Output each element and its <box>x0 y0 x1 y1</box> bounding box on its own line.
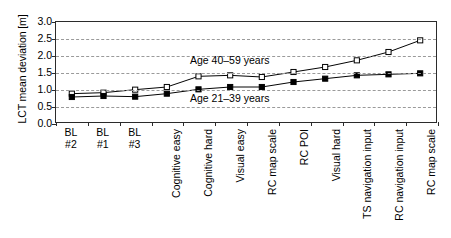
x-axis-category-labels: BL#2BL#1BL#3Cognitive easyCognitive hard… <box>55 127 437 238</box>
x-category-label: RC map scale <box>267 129 279 238</box>
data-point-marker <box>354 58 359 63</box>
x-tick-mark <box>374 122 375 126</box>
series-line-1 <box>72 40 420 93</box>
y-tick-label: 0.0 <box>26 118 52 129</box>
x-tick-mark <box>88 122 89 126</box>
y-tick-label: 3.0 <box>26 16 52 27</box>
x-category-label: Visual hard <box>331 129 343 238</box>
x-category-label-line: BL <box>119 127 151 139</box>
data-point-marker <box>291 79 296 84</box>
data-point-marker <box>69 94 74 99</box>
data-point-marker <box>323 64 328 69</box>
data-point-marker <box>101 93 106 98</box>
data-point-marker <box>133 94 138 99</box>
data-point-marker <box>164 84 169 89</box>
data-point-marker <box>386 49 391 54</box>
x-tick-mark <box>215 122 216 126</box>
x-category-label: Visual easy <box>235 129 247 238</box>
series-annotation-age-40-59: Age 40–59 years <box>190 54 269 66</box>
x-category-label-line: BL <box>87 127 119 139</box>
data-point-marker <box>164 91 169 96</box>
x-category-label: Cognitive easy <box>171 129 183 238</box>
x-category-label: RC map scale <box>426 129 438 238</box>
x-category-label-line: BL <box>55 127 87 139</box>
x-category-label: Cognitive hard <box>203 129 215 238</box>
chart-figure: LCT mean deviation [m] 3.02.52.01.51.00.… <box>0 0 451 238</box>
y-tick-label: 2.5 <box>26 33 52 44</box>
x-tick-mark <box>311 122 312 126</box>
data-point-marker <box>196 74 201 79</box>
x-tick-mark <box>343 122 344 126</box>
gridline <box>56 39 436 40</box>
x-category-label-line: #1 <box>87 139 119 151</box>
gridline <box>56 73 436 74</box>
x-tick-mark <box>279 122 280 126</box>
x-tick-mark <box>438 122 439 126</box>
gridline <box>56 107 436 108</box>
y-tick-label: 1.0 <box>26 84 52 95</box>
x-category-label: BL#2 <box>55 127 87 150</box>
y-tick-mark <box>52 22 56 23</box>
series-annotation-age-21-39: Age 21–39 years <box>190 92 269 104</box>
x-tick-mark <box>406 122 407 126</box>
x-category-label: BL#3 <box>119 127 151 150</box>
x-tick-mark <box>183 122 184 126</box>
x-category-label: RC POI <box>299 129 311 238</box>
y-tick-label: 1.5 <box>26 67 52 78</box>
x-tick-mark <box>120 122 121 126</box>
plot-area <box>55 21 437 123</box>
y-tick-label: 2.0 <box>26 50 52 61</box>
data-point-marker <box>228 84 233 89</box>
x-category-label-line: #3 <box>119 139 151 151</box>
x-tick-mark <box>152 122 153 126</box>
y-tick-label: 0.5 <box>26 101 52 112</box>
data-point-marker <box>259 74 264 79</box>
x-tick-mark <box>56 122 57 126</box>
x-category-label: BL#1 <box>87 127 119 150</box>
x-tick-mark <box>247 122 248 126</box>
x-category-label-line: #2 <box>55 139 87 151</box>
y-axis-tick-labels: 3.02.52.01.51.00.50.0 <box>22 0 52 238</box>
x-category-label: RC navigation input <box>394 129 406 238</box>
x-category-label: TS navigation input <box>362 129 374 238</box>
data-point-marker <box>323 76 328 81</box>
gridline <box>56 90 436 91</box>
data-point-marker <box>259 84 264 89</box>
